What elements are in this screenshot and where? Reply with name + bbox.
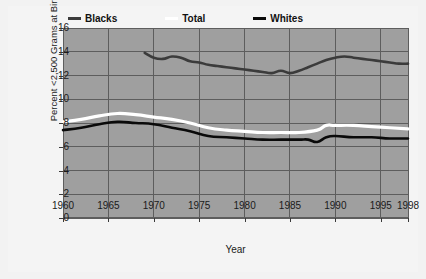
legend-label: Blacks bbox=[85, 13, 117, 24]
y-tick-label: 10 bbox=[29, 94, 69, 104]
y-tick-label: 12 bbox=[29, 71, 69, 81]
plot-area bbox=[63, 28, 408, 218]
x-tick-label: 1965 bbox=[83, 200, 133, 211]
legend-swatch-icon bbox=[165, 17, 178, 20]
chart-legend: BlacksTotalWhites bbox=[68, 10, 303, 26]
legend-swatch-icon bbox=[68, 17, 81, 20]
y-tick-mark bbox=[59, 147, 63, 148]
x-tick-label: 1990 bbox=[310, 200, 360, 211]
legend-item-blacks: Blacks bbox=[68, 13, 117, 24]
x-tick-label: 1970 bbox=[129, 200, 179, 211]
y-tick-mark bbox=[59, 171, 63, 172]
y-tick-mark bbox=[59, 194, 63, 195]
x-tick-mark bbox=[108, 218, 109, 222]
x-tick-label: 1960 bbox=[38, 200, 88, 211]
series-lines bbox=[63, 53, 408, 142]
x-tick-mark bbox=[381, 218, 382, 222]
series-line-blacks bbox=[145, 53, 408, 73]
y-tick-mark bbox=[59, 52, 63, 53]
x-tick-mark bbox=[245, 218, 246, 222]
y-axis-title: Percent <2,500 Grams at Birth bbox=[48, 0, 62, 132]
x-tick-mark bbox=[335, 218, 336, 222]
x-tick-mark bbox=[154, 218, 155, 222]
y-tick-label: 2 bbox=[29, 189, 69, 199]
x-tick-label: 1998 bbox=[383, 200, 426, 211]
chart-figure: Percent <2,500 Grams at Birth 0246810121… bbox=[0, 0, 426, 279]
y-tick-label: 14 bbox=[29, 47, 69, 57]
legend-label: Whites bbox=[270, 13, 303, 24]
legend-swatch-icon bbox=[253, 17, 266, 20]
plot-svg bbox=[63, 28, 408, 218]
y-tick-label: 8 bbox=[29, 118, 69, 128]
x-tick-mark bbox=[408, 218, 409, 222]
x-tick-label: 1975 bbox=[174, 200, 224, 211]
y-tick-label: 16 bbox=[29, 23, 69, 33]
legend-item-whites: Whites bbox=[253, 13, 303, 24]
y-tick-mark bbox=[59, 28, 63, 29]
x-tick-mark bbox=[63, 218, 64, 222]
chart-canvas: Percent <2,500 Grams at Birth 0246810121… bbox=[8, 6, 418, 272]
x-axis-title: Year bbox=[63, 244, 408, 255]
legend-label: Total bbox=[182, 13, 205, 24]
x-tick-mark bbox=[199, 218, 200, 222]
x-tick-label: 1980 bbox=[220, 200, 270, 211]
x-tick-label: 1985 bbox=[265, 200, 315, 211]
legend-item-total: Total bbox=[165, 13, 205, 24]
y-tick-label: 6 bbox=[29, 142, 69, 152]
x-tick-mark bbox=[290, 218, 291, 222]
y-tick-mark bbox=[59, 76, 63, 77]
y-tick-mark bbox=[59, 123, 63, 124]
y-tick-mark bbox=[59, 99, 63, 100]
y-tick-label: 4 bbox=[29, 166, 69, 176]
